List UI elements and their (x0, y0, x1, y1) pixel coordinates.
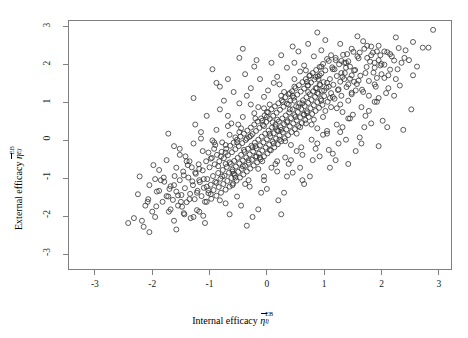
scatter-plot-figure: -3-2-10123 -3-2-10123 Internal efficacy … (0, 0, 468, 338)
y-axis-symbol-base: η (13, 154, 24, 159)
y-axis-title: External efficacy ηEBEj (12, 144, 24, 230)
y-axis-title-text: External efficacy (13, 162, 24, 230)
y-axis-title-wrapper: External efficacy ηEBEj (0, 0, 468, 338)
y-axis-symbol-subscript: Ej (15, 149, 22, 155)
y-axis-symbol: ηEBEj (12, 144, 24, 159)
